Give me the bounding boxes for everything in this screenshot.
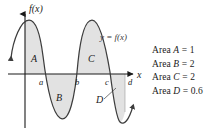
legend-letter-C: C <box>173 72 179 82</box>
legend-equals-D: = <box>183 86 188 96</box>
legend-letter-A: A <box>173 45 179 55</box>
region-label-B: B <box>56 92 62 103</box>
curve-plot-svg: f(x) x y = f(x) a b c d A B C D <box>0 0 150 136</box>
legend-value-C: 2 <box>190 72 195 82</box>
legend-row-C: Area C = 2 <box>152 71 218 84</box>
y-axis-label: f(x) <box>29 3 44 15</box>
region-label-A: A <box>30 53 38 64</box>
legend-letter-D: D <box>173 86 180 96</box>
x-axis-label: x <box>136 69 142 80</box>
legend-word-C: Area <box>152 72 171 82</box>
region-label-C: C <box>88 53 95 64</box>
legend-row-B: Area B = 2 <box>152 58 218 71</box>
legend-row-A: Area A = 1 <box>152 44 218 57</box>
curve-equation-label: y = f(x) <box>99 32 127 42</box>
legend-value-D: 0.6 <box>191 86 203 96</box>
tick-label-c: c <box>105 77 109 87</box>
legend-value-B: 2 <box>190 59 195 69</box>
legend-equals-A: = <box>182 45 187 55</box>
legend-row-D: Area D = 0.6 <box>152 85 218 98</box>
tick-label-b: b <box>75 77 79 87</box>
legend-letter-B: B <box>173 59 179 69</box>
area-legend-panel: Area A = 1 Area B = 2 Area C = 2 Area D … <box>152 44 218 97</box>
legend-equals-B: = <box>182 59 187 69</box>
region-label-D: D <box>95 94 104 105</box>
legend-word-B: Area <box>152 59 171 69</box>
tick-label-a: a <box>39 77 43 87</box>
legend-equals-C: = <box>182 72 187 82</box>
tick-label-d: d <box>128 77 133 87</box>
figure-container: f(x) x y = f(x) a b c d A B C D Area A =… <box>0 0 218 136</box>
legend-word-A: Area <box>152 45 171 55</box>
legend-word-D: Area <box>152 86 171 96</box>
plot-area: f(x) x y = f(x) a b c d A B C D <box>0 0 150 136</box>
legend-value-A: 1 <box>190 45 195 55</box>
